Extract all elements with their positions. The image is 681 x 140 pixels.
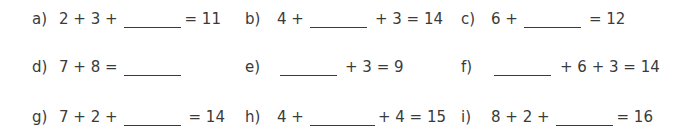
problem-h: h) 4 + + 4 = 15: [245, 108, 446, 126]
answer-blank[interactable]: [280, 61, 337, 76]
problem-label: g): [32, 108, 59, 126]
problem-b: b) 4 + + 3 = 14: [245, 10, 443, 28]
expression-after: = 16: [617, 108, 653, 126]
answer-blank[interactable]: [524, 13, 581, 28]
problem-label: h): [245, 108, 277, 126]
problem-label: c): [461, 10, 491, 28]
problem-c: c) 6 + = 12: [461, 10, 625, 28]
problem-label: e): [245, 58, 280, 76]
problem-label: b): [245, 10, 277, 28]
expression-before: 6 +: [491, 10, 518, 28]
expression-after: = 14: [189, 108, 225, 126]
answer-blank[interactable]: [124, 111, 181, 126]
answer-blank[interactable]: [556, 111, 613, 126]
expression-after: + 3 = 14: [375, 10, 443, 28]
expression-before: 8 + 2 +: [491, 108, 550, 126]
expression-before: 4 +: [277, 108, 304, 126]
expression-before: 7 + 8 =: [59, 58, 118, 76]
expression-after: = 11: [185, 10, 221, 28]
expression-after: = 12: [589, 10, 625, 28]
problem-i: i) 8 + 2 + = 16: [461, 108, 653, 126]
problem-label: a): [32, 10, 59, 28]
answer-blank[interactable]: [124, 61, 181, 76]
problem-label: f): [461, 58, 494, 76]
problem-a: a) 2 + 3 + = 11: [32, 10, 221, 28]
problem-f: f) + 6 + 3 = 14: [461, 58, 660, 76]
problem-label: i): [461, 108, 491, 126]
expression-before: 2 + 3 +: [59, 10, 118, 28]
answer-blank[interactable]: [310, 13, 367, 28]
answer-blank[interactable]: [124, 13, 181, 28]
problem-g: g) 7 + 2 + = 14: [32, 108, 225, 126]
expression-after: + 6 + 3 = 14: [560, 58, 660, 76]
expression-after: + 3 = 9: [345, 58, 404, 76]
problem-label: d): [32, 58, 59, 76]
answer-blank[interactable]: [310, 111, 375, 126]
expression-before: 7 + 2 +: [59, 108, 118, 126]
answer-blank[interactable]: [494, 61, 551, 76]
expression-before: 4 +: [277, 10, 304, 28]
problem-e: e) + 3 = 9: [245, 58, 404, 76]
problem-d: d) 7 + 8 =: [32, 58, 181, 76]
expression-after: + 4 = 15: [378, 108, 446, 126]
